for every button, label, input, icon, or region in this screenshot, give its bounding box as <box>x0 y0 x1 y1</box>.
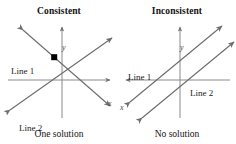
panel-consistent: Consistent <box>0 0 118 144</box>
graph-line-1-consistent <box>23 30 110 106</box>
line-label-1-consistent: Line 1 <box>11 66 34 76</box>
plot-consistent: y x Line 1 Line 2 <box>0 18 118 124</box>
plot-inconsistent: y x Line 1 Line 2 <box>118 18 236 124</box>
panel-inconsistent: Inconsistent <box>118 0 236 144</box>
y-axis-label-inconsistent: y <box>180 44 184 52</box>
panel-title-consistent: Consistent <box>0 5 118 17</box>
panel-caption-inconsistent: No solution <box>118 128 236 140</box>
panel-caption-consistent: One solution <box>0 128 118 140</box>
line-label-1-inconsistent: Line 1 <box>128 72 151 82</box>
line-label-2-inconsistent: Line 2 <box>190 88 213 98</box>
x-axis-label-inconsistent: x <box>120 104 124 112</box>
y-axis-label-consistent: y <box>62 44 66 52</box>
x-axis-label-consistent: x <box>108 100 112 108</box>
systems-of-equations-figure: Consistent <box>0 0 236 144</box>
panel-title-inconsistent: Inconsistent <box>118 5 236 17</box>
intersection-point <box>51 54 57 60</box>
